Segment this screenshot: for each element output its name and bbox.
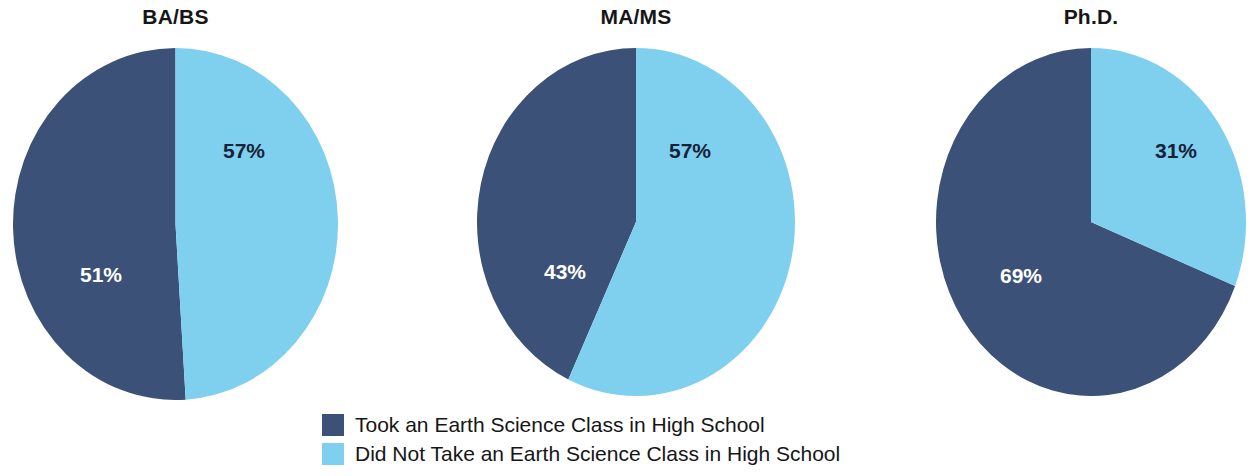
pie-graphic-ba-bs: 57% 51% <box>13 48 338 400</box>
pie-label-phd-took: 69% <box>1000 264 1042 288</box>
pie-slice-ba-bs-did-not-take[interactable] <box>176 48 338 400</box>
pie-panel-ba-bs: BA/BS 57% 51% <box>13 0 338 404</box>
pie-svg-ba-bs <box>13 48 338 400</box>
pie-label-ba-bs-took: 51% <box>80 263 122 287</box>
legend-swatch-took-icon <box>322 414 344 436</box>
pie-label-ba-bs-did-not-take: 57% <box>223 139 265 163</box>
legend-swatch-did-not-take-icon <box>322 443 344 465</box>
pie-label-ma-ms-did-not-take: 57% <box>669 139 711 163</box>
pie-svg-phd <box>936 48 1246 396</box>
pie-chart-figure: BA/BS 57% 51% MA/MS <box>0 0 1255 476</box>
pie-title-ma-ms: MA/MS <box>477 5 795 29</box>
pie-graphic-phd: 31% 69% <box>936 48 1246 396</box>
pie-svg-ma-ms <box>477 48 795 396</box>
pie-title-phd: Ph.D. <box>936 5 1246 29</box>
pie-graphic-ma-ms: 57% 43% <box>477 48 795 396</box>
pie-title-ba-bs: BA/BS <box>13 5 338 29</box>
chart-legend: Took an Earth Science Class in High Scho… <box>322 410 840 468</box>
pie-label-ma-ms-took: 43% <box>544 260 586 284</box>
legend-item-took[interactable]: Took an Earth Science Class in High Scho… <box>322 410 840 439</box>
legend-item-did-not-take[interactable]: Did Not Take an Earth Science Class in H… <box>322 439 840 468</box>
legend-label-took: Took an Earth Science Class in High Scho… <box>355 414 765 435</box>
pie-label-phd-did-not-take: 31% <box>1155 139 1197 163</box>
pie-panel-ma-ms: MA/MS 57% 43% <box>477 0 795 404</box>
legend-label-did-not-take: Did Not Take an Earth Science Class in H… <box>355 443 840 464</box>
pie-panel-phd: Ph.D. 31% 69% <box>936 0 1246 404</box>
pie-slice-ba-bs-took[interactable] <box>13 48 186 400</box>
